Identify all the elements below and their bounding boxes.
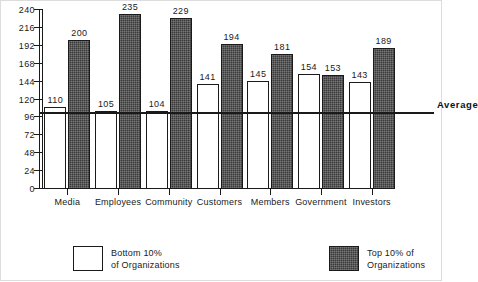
x-axis-tick bbox=[67, 188, 68, 195]
y-axis-tick bbox=[34, 170, 43, 171]
x-axis-category-label: Members bbox=[251, 197, 290, 207]
legend-label: Bottom 10%of Organizations bbox=[111, 246, 180, 271]
average-line bbox=[39, 112, 434, 114]
y-axis-tick-label: 240 bbox=[5, 5, 35, 15]
y-axis-tick-label: 216 bbox=[5, 23, 35, 33]
bar-value-label: 235 bbox=[122, 2, 138, 12]
legend-label-line2: of Organizations bbox=[111, 260, 180, 272]
y-axis-tick bbox=[34, 99, 43, 100]
x-axis-tick bbox=[270, 188, 271, 195]
legend-label-line2: Organizations bbox=[367, 260, 425, 272]
x-axis-tick bbox=[372, 188, 373, 195]
x-axis-category-label: Government bbox=[295, 197, 347, 207]
legend-item: Top 10% ofOrganizations bbox=[329, 246, 425, 271]
chart-legend: Bottom 10%of OrganizationsTop 10% ofOrga… bbox=[1, 233, 444, 279]
x-axis-tick bbox=[321, 188, 322, 195]
bar-top10 bbox=[68, 40, 90, 189]
x-axis-category-label: Media bbox=[55, 197, 81, 207]
bar-bottom10 bbox=[247, 81, 269, 189]
y-axis-tick bbox=[34, 152, 43, 153]
y-axis-tick bbox=[34, 188, 43, 189]
legend-swatch-dark bbox=[329, 246, 359, 271]
bar-bottom10 bbox=[146, 111, 168, 189]
bar-bottom10 bbox=[44, 107, 66, 189]
bar-top10 bbox=[271, 54, 293, 189]
y-axis-tick bbox=[34, 134, 43, 135]
bar-value-label: 189 bbox=[376, 36, 392, 46]
y-axis-tick bbox=[34, 116, 43, 117]
bar-bottom10 bbox=[197, 84, 219, 189]
bar-top10 bbox=[119, 14, 141, 189]
x-axis-tick bbox=[118, 188, 119, 195]
bar-bottom10 bbox=[298, 74, 320, 189]
bar-bottom10 bbox=[349, 82, 371, 189]
legend-label-line1: Top 10% of bbox=[367, 248, 425, 260]
bar-value-label: 154 bbox=[301, 62, 317, 72]
bar-top10 bbox=[221, 44, 243, 189]
x-axis-tick bbox=[169, 188, 170, 195]
chart-frame: 024487296120144168192216240 110200105235… bbox=[0, 0, 442, 281]
bar-top10 bbox=[322, 75, 344, 189]
y-axis-tick-label: 0 bbox=[5, 184, 35, 194]
y-axis-tick bbox=[34, 45, 43, 46]
legend-swatch-light bbox=[73, 246, 103, 271]
bar-value-label: 200 bbox=[71, 28, 87, 38]
x-axis-category-label: Employees bbox=[95, 197, 141, 207]
bar-value-label: 110 bbox=[48, 95, 64, 105]
bar-value-label: 143 bbox=[352, 70, 368, 80]
y-axis-tick-label: 48 bbox=[5, 148, 35, 158]
y-axis-tick-label: 72 bbox=[5, 130, 35, 140]
x-axis-category-label: Community bbox=[145, 197, 192, 207]
bar-value-label: 229 bbox=[173, 6, 189, 16]
y-axis-tick-label: 24 bbox=[5, 166, 35, 176]
y-axis-tick bbox=[34, 81, 43, 82]
bar-value-label: 141 bbox=[199, 72, 215, 82]
bar-value-label: 181 bbox=[274, 42, 290, 52]
bar-value-label: 105 bbox=[98, 99, 114, 109]
y-axis-line bbox=[39, 10, 40, 189]
bar-bottom10 bbox=[95, 111, 117, 189]
bar-top10 bbox=[170, 18, 192, 189]
plot-area: 024487296120144168192216240 110200105235… bbox=[39, 10, 394, 189]
bar-value-label: 104 bbox=[149, 99, 165, 109]
legend-label: Top 10% ofOrganizations bbox=[367, 246, 425, 271]
bar-top10 bbox=[373, 48, 395, 189]
y-axis-tick bbox=[34, 9, 43, 10]
average-label: Average bbox=[437, 99, 478, 110]
y-axis-tick-label: 192 bbox=[5, 41, 35, 51]
bar-value-label: 145 bbox=[250, 69, 266, 79]
bar-value-label: 194 bbox=[223, 32, 239, 42]
y-axis-tick bbox=[34, 27, 43, 28]
x-axis-category-label: Customers bbox=[197, 197, 242, 207]
y-axis-tick bbox=[34, 63, 43, 64]
y-axis-tick-label: 168 bbox=[5, 59, 35, 69]
y-axis-tick-label: 96 bbox=[5, 112, 35, 122]
y-axis-tick-label: 120 bbox=[5, 95, 35, 105]
legend-label-line1: Bottom 10% bbox=[111, 248, 180, 260]
legend-item: Bottom 10%of Organizations bbox=[73, 246, 180, 271]
bar-value-label: 153 bbox=[325, 63, 341, 73]
x-axis-category-label: Investors bbox=[352, 197, 390, 207]
x-axis-tick bbox=[220, 188, 221, 195]
y-axis-tick-label: 144 bbox=[5, 77, 35, 87]
y-axis-line-inner bbox=[42, 10, 43, 189]
